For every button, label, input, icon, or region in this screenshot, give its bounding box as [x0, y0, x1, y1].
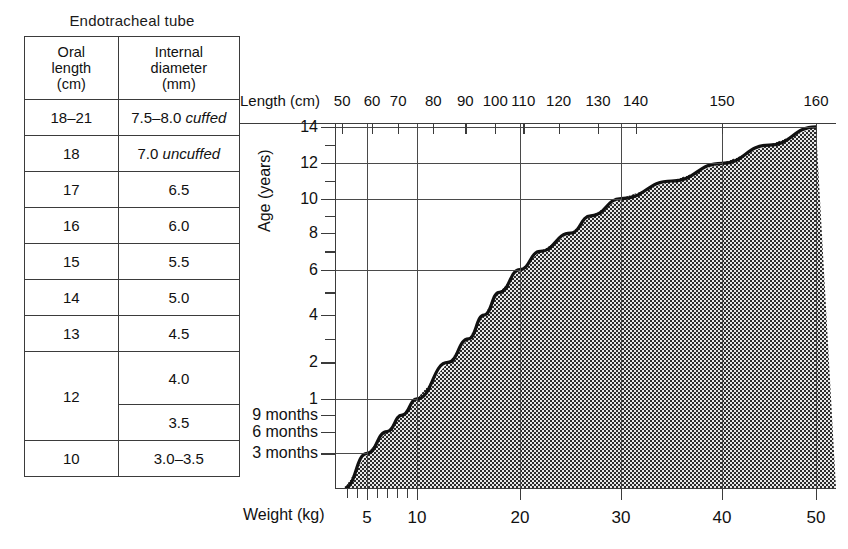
top-axis-title: Length (cm) — [240, 92, 320, 109]
x-axis-tick-label: 30 — [612, 508, 631, 528]
x-axis-tick — [621, 489, 622, 500]
top-axis-tick-label: 70 — [390, 92, 407, 109]
y-axis-minor-tick — [325, 251, 336, 252]
cell-internal-diameter: 6.5 — [118, 172, 239, 208]
y-axis-tick — [321, 127, 336, 128]
top-axis-tick-label: 140 — [623, 92, 648, 109]
cell-internal-diameter: 3.0–3.5 — [118, 441, 239, 477]
y-axis-title: Age (years) — [256, 149, 274, 232]
top-axis-tick-label: 50 — [334, 92, 351, 109]
top-axis-tick-label: 90 — [457, 92, 474, 109]
x-axis-minor-tick — [357, 489, 358, 498]
x-axis-tick-label: 10 — [408, 508, 427, 528]
cell-oral-length: 13 — [25, 316, 119, 352]
vertical-gridline — [367, 124, 368, 488]
horizontal-gridline — [336, 163, 722, 164]
top-axis-tick-label: 60 — [364, 92, 381, 109]
x-axis-minor-tick — [387, 489, 388, 498]
y-axis-tick — [321, 315, 336, 316]
horizontal-gridline — [336, 453, 367, 454]
y-axis-tick — [321, 270, 336, 271]
x-axis-tick — [417, 489, 418, 500]
table-row: 16 6.0 — [25, 208, 240, 244]
top-axis-tick-label: 130 — [585, 92, 610, 109]
y-axis-minor-tick — [325, 181, 336, 182]
x-axis-tick — [816, 489, 817, 500]
y-axis-tick — [321, 362, 336, 363]
table-row: 17 6.5 — [25, 172, 240, 208]
x-axis-tick-label: 40 — [713, 508, 732, 528]
vertical-gridline — [621, 124, 622, 488]
diameter-note: cuffed — [185, 109, 226, 126]
cell-oral-length: 18–21 — [25, 100, 119, 136]
y-axis-minor-tick — [325, 292, 336, 293]
y-axis-tick — [321, 199, 336, 200]
oral-length-line-1: Oral — [25, 44, 118, 60]
column-header-oral-length: Oral length (cm) — [25, 37, 119, 100]
cell-oral-length: 10 — [25, 441, 119, 477]
x-axis-tick-label: 5 — [362, 508, 371, 528]
cell-internal-diameter: 5.0 — [118, 280, 239, 316]
cell-internal-diameter: 7.0 uncuffed — [118, 136, 239, 172]
x-axis-tick — [520, 489, 521, 500]
table-row: 12 4.0 — [25, 352, 240, 405]
cell-internal-diameter: 4.5 — [118, 316, 239, 352]
cell-internal-diameter: 6.0 — [118, 208, 239, 244]
y-axis-minor-tick — [325, 216, 336, 217]
cell-internal-diameter: 3.5 — [118, 405, 239, 441]
tube-table-title: Endotracheal tube — [24, 12, 240, 29]
x-axis-minor-tick — [397, 489, 398, 498]
y-axis-tick — [321, 163, 336, 164]
x-axis-line — [335, 488, 836, 489]
vertical-gridline — [816, 124, 817, 488]
table-header-row: Oral length (cm) Internal diameter (mm) — [25, 37, 240, 100]
x-axis-tick-label: 20 — [511, 508, 530, 528]
endotracheal-tube-table: Oral length (cm) Internal diameter (mm) … — [24, 36, 240, 477]
y-axis-minor-tick — [325, 145, 336, 146]
cell-oral-length: 18 — [25, 136, 119, 172]
horizontal-gridline — [336, 199, 621, 200]
cell-internal-diameter: 7.5–8.0 cuffed — [118, 100, 239, 136]
y-axis-tick — [321, 453, 336, 454]
y-axis-minor-tick — [325, 339, 336, 340]
x-axis-minor-tick — [377, 489, 378, 498]
table-row: 18–21 7.5–8.0 cuffed — [25, 100, 240, 136]
x-axis-tick-label: 50 — [807, 508, 826, 528]
y-axis-tick — [321, 415, 336, 416]
x-axis-tick — [722, 489, 723, 500]
cell-oral-length: 16 — [25, 208, 119, 244]
cell-oral-length: 17 — [25, 172, 119, 208]
diameter-value: 7.5–8.0 — [131, 109, 185, 126]
x-axis-title: Weight (kg) — [243, 506, 325, 524]
cell-oral-length: 15 — [25, 244, 119, 280]
table-row: 18 7.0 uncuffed — [25, 136, 240, 172]
x-axis-minor-tick — [347, 489, 348, 498]
x-axis-minor-tick — [407, 489, 408, 498]
y-axis-tick — [321, 233, 336, 234]
cell-oral-length: 12 — [25, 352, 119, 441]
age-weight-curve — [336, 124, 836, 488]
y-axis-tick — [321, 399, 336, 400]
top-axis-tick-label: 150 — [709, 92, 734, 109]
column-header-internal-diameter: Internal diameter (mm) — [118, 37, 239, 100]
vertical-gridline — [417, 124, 418, 488]
top-axis-tick-label: 100 — [483, 92, 508, 109]
vertical-gridline — [722, 124, 723, 488]
diameter-value: 7.0 — [138, 145, 163, 162]
diameter-note: uncuffed — [163, 145, 221, 162]
top-axis-tick-label: 120 — [546, 92, 571, 109]
cell-internal-diameter: 5.5 — [118, 244, 239, 280]
cell-oral-length: 14 — [25, 280, 119, 316]
horizontal-gridline — [336, 127, 816, 128]
growth-chart-plot-area — [336, 124, 836, 488]
cell-internal-diameter: 4.0 — [118, 352, 239, 405]
table-row: 14 5.0 — [25, 280, 240, 316]
top-axis-tick-label: 110 — [511, 92, 535, 109]
internal-diameter-line-3: (mm) — [119, 76, 239, 92]
vertical-gridline — [520, 124, 521, 488]
top-axis-tick-label: 160 — [803, 92, 828, 109]
internal-diameter-line-2: diameter — [119, 60, 239, 76]
y-axis-tick — [321, 432, 336, 433]
table-to-axis-connector — [240, 123, 336, 124]
table-row: 15 5.5 — [25, 244, 240, 280]
